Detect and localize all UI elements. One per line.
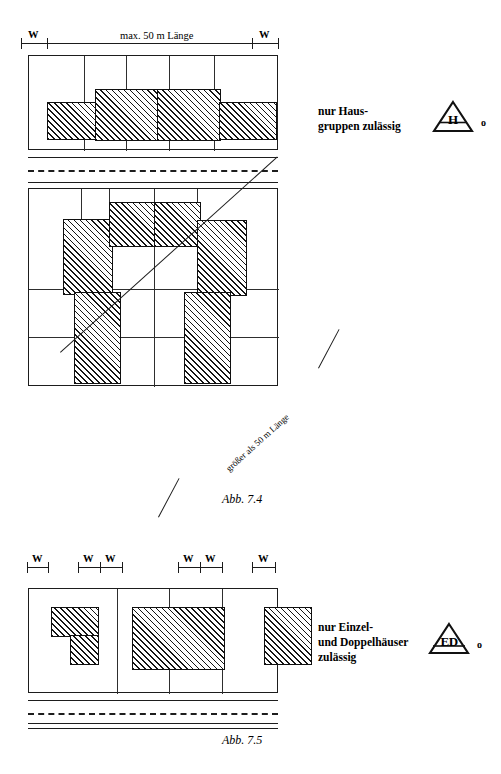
- dim-label-w: W: [258, 553, 269, 564]
- building-hatched: [157, 89, 221, 141]
- building-hatched: [63, 219, 113, 295]
- building-hatched-semi-detached: [132, 607, 225, 670]
- street-edge-line: [28, 723, 278, 724]
- street-edge-line: [28, 700, 278, 701]
- dim-tick: [275, 562, 276, 573]
- dim-label-w: W: [183, 553, 194, 564]
- building-hatched: [219, 102, 277, 140]
- dim-line-main-span: [48, 43, 253, 44]
- triangle-symbol-letters: ED: [428, 634, 470, 650]
- street-edge-line: [28, 728, 278, 729]
- building-hatched: [264, 607, 312, 665]
- diagonal-end-tick: [158, 478, 180, 517]
- building-hatched: [109, 202, 157, 247]
- dim-tick: [222, 562, 223, 573]
- diagonal-dimension-label: größer als 50 m Länge: [224, 412, 291, 474]
- block-3-outline: [28, 588, 278, 693]
- dim-tick: [200, 562, 201, 573]
- l-segment-top: [51, 607, 99, 637]
- street-center-dashed-line: [28, 170, 278, 172]
- symbol-suffix-o: o: [481, 117, 486, 128]
- dim-tick: [100, 562, 101, 573]
- dim-label-w: W: [205, 553, 216, 564]
- street-edge-line: [28, 157, 278, 158]
- legend-line-1: nur Einzel-: [318, 620, 373, 635]
- dim-line-right-w: [252, 43, 279, 44]
- dim-label-w: W: [32, 553, 43, 564]
- legend-line-2: und Doppelhäuser: [318, 635, 408, 650]
- figure-page: W max. 50 m Länge W: [0, 0, 501, 774]
- building-hatched: [184, 292, 231, 384]
- block-1-outline: [28, 55, 278, 150]
- dim-label-w: W: [105, 553, 116, 564]
- diagonal-end-tick: [318, 329, 340, 368]
- building-hatched: [154, 202, 201, 247]
- legend-line-2: gruppen zulässig: [318, 119, 401, 134]
- dim-label-max-length: max. 50 m Länge: [120, 30, 193, 41]
- dim-tick: [48, 562, 49, 573]
- plot-divider: [29, 337, 279, 338]
- building-hatched: [95, 89, 160, 141]
- triangle-symbol-ed: ED: [428, 622, 470, 656]
- dim-label-w-left: W: [28, 29, 39, 40]
- legend-line-3: zulässig: [318, 650, 356, 665]
- dim-line: [252, 567, 276, 568]
- dim-tick: [278, 38, 279, 49]
- street-edge-line: [28, 182, 278, 183]
- dim-tick: [122, 562, 123, 573]
- block-2-outline: [28, 188, 278, 386]
- building-hatched: [74, 292, 121, 384]
- street-center-dashed-line: [28, 713, 278, 715]
- dim-line-left-w: [21, 43, 48, 44]
- caption-abb-7-4: Abb. 7.4: [222, 492, 262, 507]
- building-hatched-l-shape: [51, 607, 99, 665]
- dim-line: [27, 567, 49, 568]
- legend-line-1: nur Haus-: [318, 104, 368, 119]
- dim-label-w-right: W: [259, 29, 270, 40]
- l-segment-bottom: [70, 635, 99, 665]
- dim-label-w: W: [83, 553, 94, 564]
- triangle-symbol-h: H: [432, 100, 474, 134]
- symbol-suffix-o: o: [477, 639, 482, 650]
- plot-divider: [117, 589, 118, 694]
- caption-abb-7-5: Abb. 7.5: [222, 733, 262, 748]
- building-hatched: [197, 220, 247, 296]
- triangle-symbol-letters: H: [432, 112, 474, 128]
